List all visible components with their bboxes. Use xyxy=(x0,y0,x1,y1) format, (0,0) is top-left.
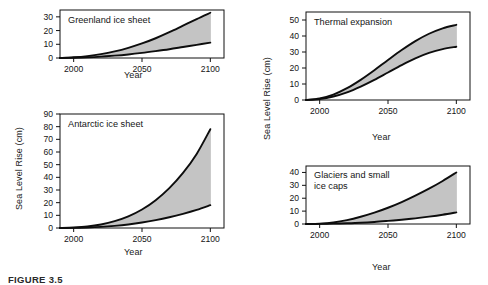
svg-text:Greenland ice sheet: Greenland ice sheet xyxy=(68,15,151,25)
svg-text:2100: 2100 xyxy=(201,64,220,74)
svg-text:ice caps: ice caps xyxy=(314,181,348,191)
svg-text:30: 30 xyxy=(43,185,53,195)
svg-text:10: 10 xyxy=(289,79,299,89)
svg-text:2000: 2000 xyxy=(310,230,329,240)
x-axis-title-antarctic: Year xyxy=(124,247,143,257)
panel-thermal-expansion: 01020304050200020502100Thermal expansion xyxy=(274,6,482,124)
svg-text:40: 40 xyxy=(289,167,299,177)
svg-text:20: 20 xyxy=(289,193,299,203)
chart-thermal-expansion: 01020304050200020502100Thermal expansion xyxy=(274,6,482,124)
svg-text:0: 0 xyxy=(294,219,299,229)
svg-text:2050: 2050 xyxy=(132,234,151,244)
svg-text:20: 20 xyxy=(289,63,299,73)
chart-glaciers: 010203040200020502100Glaciers and smalli… xyxy=(274,160,482,248)
svg-text:10: 10 xyxy=(289,206,299,216)
svg-text:2100: 2100 xyxy=(447,106,466,116)
svg-text:Antarctic ice sheet: Antarctic ice sheet xyxy=(68,119,144,129)
svg-text:2000: 2000 xyxy=(310,106,329,116)
svg-text:0: 0 xyxy=(48,223,53,233)
panel-antarctic-ice-sheet: 0102030405060708090200020502100Antarctic… xyxy=(26,108,236,248)
svg-text:10: 10 xyxy=(43,39,53,49)
figure-caption: FIGURE 3.5 xyxy=(8,274,63,285)
y-axis-title-left: Sea Level Rise (cm) xyxy=(14,127,24,210)
panel-glaciers-small-ice-caps: 010203040200020502100Glaciers and smalli… xyxy=(274,160,482,248)
svg-text:Glaciers and small: Glaciers and small xyxy=(314,170,390,180)
svg-text:2050: 2050 xyxy=(378,106,397,116)
svg-text:10: 10 xyxy=(43,210,53,220)
y-axis-title-right: Sea Level Rise (cm) xyxy=(262,57,272,140)
svg-text:2100: 2100 xyxy=(447,230,466,240)
svg-text:50: 50 xyxy=(43,160,53,170)
svg-text:30: 30 xyxy=(289,47,299,57)
svg-text:40: 40 xyxy=(289,31,299,41)
svg-text:2050: 2050 xyxy=(378,230,397,240)
svg-text:90: 90 xyxy=(43,109,53,119)
svg-text:80: 80 xyxy=(43,122,53,132)
svg-text:0: 0 xyxy=(294,95,299,105)
svg-text:30: 30 xyxy=(289,180,299,190)
svg-text:50: 50 xyxy=(289,15,299,25)
svg-text:2000: 2000 xyxy=(64,64,83,74)
x-axis-title-greenland: Year xyxy=(124,70,143,80)
svg-text:20: 20 xyxy=(43,26,53,36)
chart-antarctic: 0102030405060708090200020502100Antarctic… xyxy=(26,108,236,248)
x-axis-title-glaciers: Year xyxy=(372,262,391,272)
svg-text:20: 20 xyxy=(43,198,53,208)
svg-text:60: 60 xyxy=(43,147,53,157)
svg-text:Thermal expansion: Thermal expansion xyxy=(314,17,392,27)
svg-text:2000: 2000 xyxy=(64,234,83,244)
x-axis-title-thermal: Year xyxy=(372,132,391,142)
svg-text:2100: 2100 xyxy=(201,234,220,244)
svg-text:40: 40 xyxy=(43,172,53,182)
svg-text:30: 30 xyxy=(43,12,53,22)
svg-text:0: 0 xyxy=(48,53,53,63)
svg-text:70: 70 xyxy=(43,134,53,144)
